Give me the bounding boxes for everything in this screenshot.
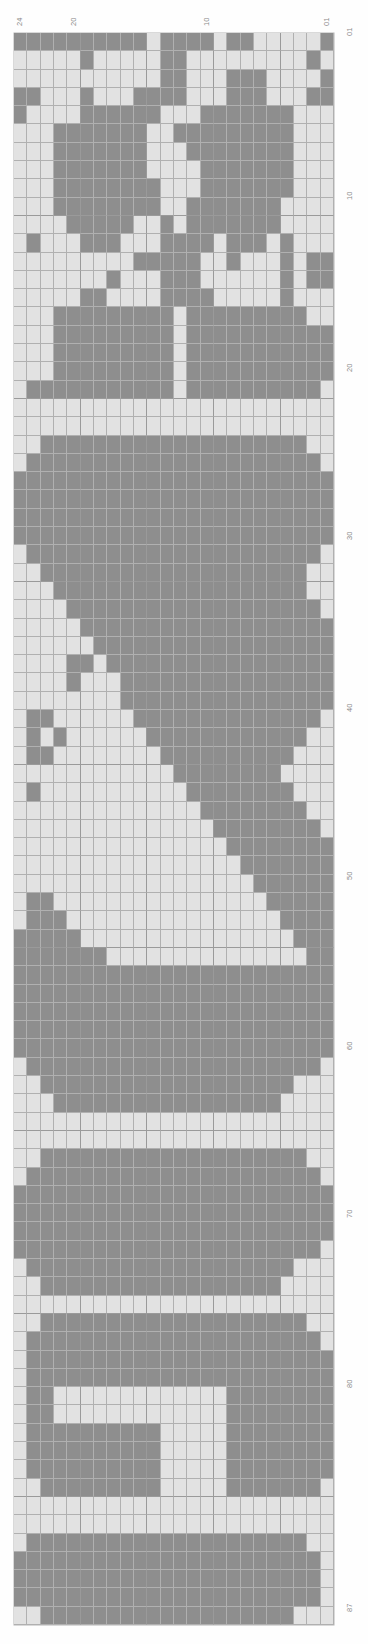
grid-cell[interactable] (281, 1296, 294, 1314)
grid-cell[interactable] (41, 1241, 54, 1259)
grid-cell[interactable] (94, 545, 107, 563)
grid-cell[interactable] (307, 655, 320, 673)
grid-cell[interactable] (81, 1424, 94, 1442)
grid-cell[interactable] (94, 655, 107, 673)
grid-cell[interactable] (54, 344, 67, 362)
grid-cell[interactable] (294, 1021, 307, 1039)
grid-cell[interactable] (294, 234, 307, 252)
grid-cell[interactable] (94, 1186, 107, 1204)
grid-cell[interactable] (41, 1003, 54, 1021)
grid-cell[interactable] (214, 783, 227, 801)
grid-cell[interactable] (241, 198, 254, 216)
grid-cell[interactable] (14, 51, 27, 69)
grid-cell[interactable] (307, 1607, 320, 1625)
grid-cell[interactable] (321, 637, 334, 655)
grid-cell[interactable] (134, 1021, 147, 1039)
grid-cell[interactable] (254, 948, 267, 966)
grid-cell[interactable] (321, 1314, 334, 1332)
grid-cell[interactable] (307, 911, 320, 929)
grid-cell[interactable] (267, 1369, 280, 1387)
grid-cell[interactable] (27, 51, 40, 69)
grid-cell[interactable] (241, 344, 254, 362)
grid-cell[interactable] (54, 1058, 67, 1076)
grid-cell[interactable] (241, 1076, 254, 1094)
grid-cell[interactable] (227, 1113, 240, 1131)
grid-cell[interactable] (147, 399, 160, 417)
grid-cell[interactable] (147, 1003, 160, 1021)
grid-cell[interactable] (147, 1607, 160, 1625)
grid-cell[interactable] (161, 875, 174, 893)
grid-cell[interactable] (227, 88, 240, 106)
grid-cell[interactable] (54, 234, 67, 252)
grid-cell[interactable] (174, 1387, 187, 1405)
grid-cell[interactable] (81, 1332, 94, 1350)
grid-cell[interactable] (281, 1003, 294, 1021)
grid-cell[interactable] (241, 490, 254, 508)
grid-cell[interactable] (254, 106, 267, 124)
grid-cell[interactable] (67, 1534, 80, 1552)
grid-cell[interactable] (81, 1259, 94, 1277)
grid-cell[interactable] (187, 143, 200, 161)
grid-cell[interactable] (187, 1094, 200, 1112)
grid-cell[interactable] (161, 1094, 174, 1112)
grid-cell[interactable] (14, 1314, 27, 1332)
grid-cell[interactable] (81, 436, 94, 454)
grid-cell[interactable] (241, 1588, 254, 1606)
grid-cell[interactable] (267, 1351, 280, 1369)
grid-cell[interactable] (267, 399, 280, 417)
grid-cell[interactable] (267, 216, 280, 234)
grid-cell[interactable] (14, 70, 27, 88)
grid-cell[interactable] (134, 362, 147, 380)
grid-cell[interactable] (201, 655, 214, 673)
grid-cell[interactable] (241, 1131, 254, 1149)
grid-cell[interactable] (294, 1296, 307, 1314)
grid-cell[interactable] (254, 1460, 267, 1478)
grid-cell[interactable] (14, 1003, 27, 1021)
grid-cell[interactable] (94, 1442, 107, 1460)
grid-cell[interactable] (321, 307, 334, 325)
grid-cell[interactable] (147, 344, 160, 362)
grid-cell[interactable] (254, 1277, 267, 1295)
grid-cell[interactable] (241, 33, 254, 51)
grid-cell[interactable] (121, 417, 134, 435)
grid-cell[interactable] (227, 1351, 240, 1369)
grid-cell[interactable] (201, 1442, 214, 1460)
grid-cell[interactable] (41, 1277, 54, 1295)
grid-cell[interactable] (81, 1058, 94, 1076)
grid-cell[interactable] (14, 417, 27, 435)
grid-cell[interactable] (41, 1442, 54, 1460)
grid-cell[interactable] (214, 1351, 227, 1369)
grid-cell[interactable] (187, 1552, 200, 1570)
grid-cell[interactable] (267, 234, 280, 252)
grid-cell[interactable] (174, 1405, 187, 1423)
grid-cell[interactable] (147, 362, 160, 380)
grid-cell[interactable] (307, 1387, 320, 1405)
grid-cell[interactable] (54, 1442, 67, 1460)
grid-cell[interactable] (134, 344, 147, 362)
grid-cell[interactable] (147, 1588, 160, 1606)
grid-cell[interactable] (241, 1570, 254, 1588)
grid-cell[interactable] (187, 911, 200, 929)
grid-cell[interactable] (107, 692, 120, 710)
grid-cell[interactable] (227, 802, 240, 820)
grid-cell[interactable] (134, 673, 147, 691)
grid-cell[interactable] (254, 1351, 267, 1369)
grid-cell[interactable] (67, 619, 80, 637)
grid-cell[interactable] (27, 326, 40, 344)
grid-cell[interactable] (27, 362, 40, 380)
grid-cell[interactable] (321, 1497, 334, 1515)
grid-cell[interactable] (121, 1149, 134, 1167)
grid-cell[interactable] (107, 966, 120, 984)
grid-cell[interactable] (321, 381, 334, 399)
grid-cell[interactable] (201, 930, 214, 948)
grid-cell[interactable] (227, 1424, 240, 1442)
grid-cell[interactable] (94, 673, 107, 691)
grid-cell[interactable] (147, 1204, 160, 1222)
grid-cell[interactable] (94, 765, 107, 783)
grid-cell[interactable] (27, 88, 40, 106)
grid-cell[interactable] (147, 728, 160, 746)
grid-cell[interactable] (107, 820, 120, 838)
grid-cell[interactable] (294, 1113, 307, 1131)
grid-cell[interactable] (254, 179, 267, 197)
grid-cell[interactable] (27, 1186, 40, 1204)
